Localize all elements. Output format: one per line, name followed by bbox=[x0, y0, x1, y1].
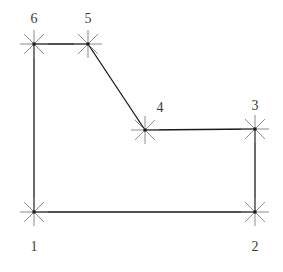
vertex-marker bbox=[74, 30, 102, 58]
vertex-marker bbox=[20, 30, 48, 58]
vertex-markers-group bbox=[20, 30, 269, 226]
vertex-point bbox=[86, 42, 89, 45]
diagram-canvas: 123456 bbox=[0, 0, 283, 272]
vertex-point bbox=[32, 42, 35, 45]
vertex-label-4: 4 bbox=[157, 100, 164, 115]
vertex-marker bbox=[241, 115, 269, 143]
vertex-label-6: 6 bbox=[31, 11, 38, 26]
vertex-point bbox=[253, 210, 256, 213]
vertex-marker bbox=[20, 198, 48, 226]
vertex-label-3: 3 bbox=[252, 98, 259, 113]
polygon-edge bbox=[88, 44, 145, 130]
vertex-marker bbox=[241, 198, 269, 226]
vertex-marker bbox=[131, 116, 159, 144]
vertex-point bbox=[32, 210, 35, 213]
vertex-point bbox=[253, 127, 256, 130]
polygon-diagram: 123456 bbox=[0, 0, 283, 272]
vertex-label-1: 1 bbox=[31, 239, 38, 254]
vertex-label-5: 5 bbox=[85, 11, 92, 26]
polygon-edge bbox=[145, 129, 255, 130]
vertex-label-2: 2 bbox=[252, 239, 259, 254]
vertex-point bbox=[143, 128, 146, 131]
